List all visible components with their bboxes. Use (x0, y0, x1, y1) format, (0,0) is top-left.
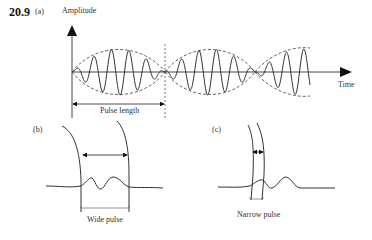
amplitude-arrow-icon (67, 25, 77, 36)
diagram-canvas (0, 0, 372, 240)
panel-c-graph (218, 123, 335, 200)
narrow-pulse-bracket (250, 197, 263, 199)
wide-pulse-bracket (81, 206, 129, 208)
wide-pulse-signal (46, 177, 163, 189)
narrow-pulse-signal (218, 177, 335, 188)
wide-pulse-right-boundary (117, 121, 129, 212)
narrow-pulse-left-boundary (248, 125, 253, 200)
narrow-pulse-right-boundary (257, 123, 264, 200)
wide-pulse-left-boundary (62, 126, 81, 212)
time-arrow-icon (340, 67, 352, 77)
panel-a-graph (67, 25, 352, 118)
panel-b-graph (46, 121, 163, 212)
